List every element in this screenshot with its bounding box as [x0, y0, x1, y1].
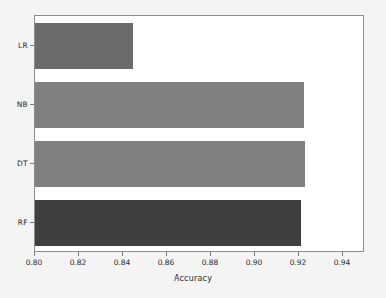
x-tick-label-3: 0.86 — [158, 258, 175, 267]
y-tick-label-nb: NB — [0, 99, 28, 108]
x-tick-label-1: 0.82 — [70, 258, 87, 267]
x-tick-mark-5 — [254, 252, 255, 256]
y-tick-label-rf: RF — [0, 218, 28, 227]
x-axis-label: Accuracy — [0, 274, 386, 283]
y-tick-mark-lr — [30, 45, 34, 46]
x-tick-label-6: 0.92 — [290, 258, 307, 267]
bar-dt — [35, 141, 305, 187]
x-tick-label-7: 0.94 — [334, 258, 351, 267]
x-tick-mark-0 — [34, 252, 35, 256]
x-tick-mark-6 — [298, 252, 299, 256]
x-tick-label-2: 0.84 — [114, 258, 131, 267]
plot-area — [34, 15, 364, 252]
bars-layer — [35, 16, 363, 251]
bar-lr — [35, 23, 133, 69]
y-tick-mark-nb — [30, 104, 34, 105]
x-tick-label-4: 0.88 — [202, 258, 219, 267]
y-tick-mark-dt — [30, 163, 34, 164]
x-tick-mark-1 — [78, 252, 79, 256]
bar-nb — [35, 82, 304, 128]
bar-chart-figure: LRNBDTRF 0.800.820.840.860.880.900.920.9… — [0, 0, 386, 298]
x-tick-label-0: 0.80 — [26, 258, 43, 267]
y-tick-label-lr: LR — [0, 40, 28, 49]
x-tick-mark-4 — [210, 252, 211, 256]
x-tick-mark-3 — [166, 252, 167, 256]
x-tick-mark-7 — [342, 252, 343, 256]
x-tick-label-5: 0.90 — [246, 258, 263, 267]
x-tick-mark-2 — [122, 252, 123, 256]
y-tick-mark-rf — [30, 222, 34, 223]
bar-rf — [35, 200, 301, 246]
y-tick-label-dt: DT — [0, 159, 28, 168]
